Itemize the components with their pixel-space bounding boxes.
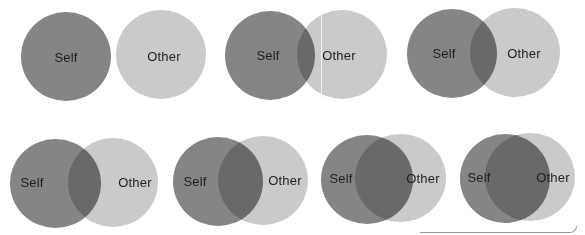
self-label: Self — [329, 171, 352, 186]
self-other-overlap-diagram: Self Other Self Other Self Other Self Ot… — [0, 0, 585, 235]
self-label: Self — [20, 175, 43, 190]
page-edge-border — [420, 226, 577, 233]
other-label: Other — [147, 49, 181, 64]
other-label: Other — [322, 48, 356, 63]
self-label: Self — [256, 48, 279, 63]
other-label: Other — [118, 175, 152, 190]
self-label: Self — [432, 46, 455, 61]
self-label: Self — [54, 50, 77, 65]
self-label: Self — [183, 174, 206, 189]
other-label: Other — [268, 173, 302, 188]
other-label: Other — [406, 171, 440, 186]
other-label: Other — [507, 46, 541, 61]
other-label: Other — [536, 170, 570, 185]
self-label: Self — [467, 170, 490, 185]
